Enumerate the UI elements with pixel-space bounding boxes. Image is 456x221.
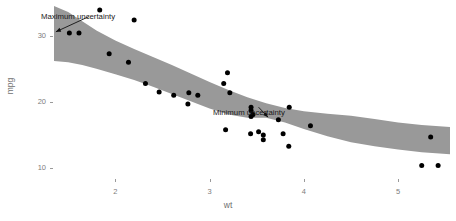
- scatter-point: [223, 127, 228, 132]
- scatter-point: [287, 105, 292, 110]
- scatter-point: [248, 131, 253, 136]
- scatter-point: [157, 90, 162, 95]
- scatter-point: [227, 90, 232, 95]
- scatter-point: [171, 93, 176, 98]
- scatter-point: [76, 31, 81, 36]
- scatter-point: [186, 90, 191, 95]
- scatter-point: [419, 163, 424, 168]
- y-tick-label: 30: [24, 32, 46, 40]
- scatter-point: [107, 51, 112, 56]
- x-tick-mark: [210, 179, 211, 182]
- scatter-point: [256, 129, 261, 134]
- y-tick-mark: [50, 102, 53, 103]
- scatter-point: [126, 60, 131, 65]
- scatter-point: [276, 117, 281, 122]
- scatter-point: [261, 137, 266, 142]
- x-tick-label: 5: [386, 188, 410, 196]
- chart-figure: Maximum uncertainty Minimum uncertainty …: [0, 0, 456, 221]
- scatter-point: [67, 31, 72, 36]
- x-tick-mark: [304, 179, 305, 182]
- annotation-maximum-uncertainty: Maximum uncertainty: [41, 13, 115, 21]
- x-tick-label: 4: [292, 188, 316, 196]
- scatter-point: [281, 131, 286, 136]
- y-axis-title: mpg: [5, 78, 15, 95]
- x-tick-label: 2: [103, 188, 127, 196]
- plot-canvas: [54, 6, 450, 178]
- scatter-point: [436, 163, 441, 168]
- scatter-point: [308, 123, 313, 128]
- scatter-point: [143, 81, 148, 86]
- x-tick-mark: [398, 179, 399, 182]
- scatter-point: [225, 70, 230, 75]
- scatter-point: [261, 133, 266, 138]
- scatter-point: [428, 134, 433, 139]
- y-tick-label: 10: [24, 164, 46, 172]
- x-tick-label: 3: [198, 188, 222, 196]
- y-tick-mark: [50, 36, 53, 37]
- scatter-point: [185, 101, 190, 106]
- plot-panel: [54, 6, 450, 178]
- scatter-point: [286, 144, 291, 149]
- scatter-point: [132, 17, 137, 22]
- x-axis-title: wt: [0, 200, 456, 210]
- scatter-point: [221, 81, 226, 86]
- scatter-point: [195, 93, 200, 98]
- y-tick-mark: [50, 168, 53, 169]
- x-tick-mark: [115, 179, 116, 182]
- annotation-minimum-uncertainty: Minimum uncertainty: [213, 109, 285, 117]
- y-tick-label: 20: [24, 98, 46, 106]
